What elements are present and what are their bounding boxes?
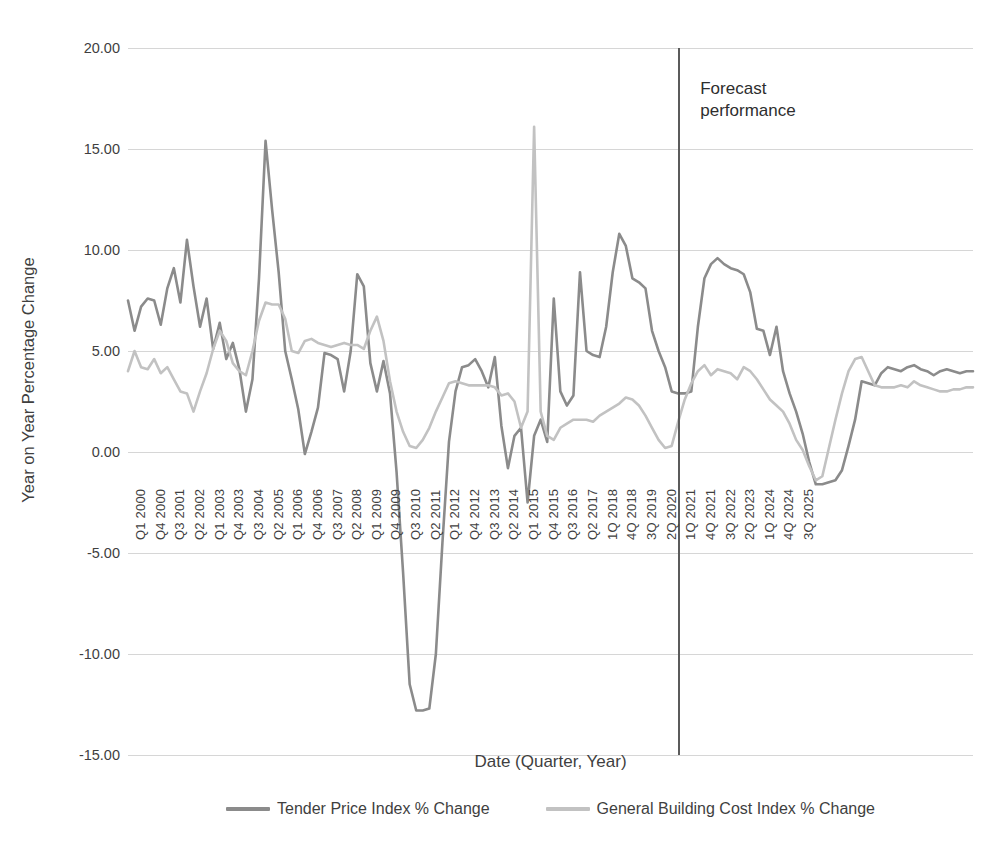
forecast-annotation: Forecast performance	[700, 78, 880, 122]
x-axis-tick-label: Q2 2008	[349, 489, 364, 540]
x-axis-ticks: Q1 2000Q4 2000Q3 2001Q2 2002Q1 2003Q4 20…	[128, 460, 973, 580]
x-axis-tick-label: 1Q 2024	[762, 489, 777, 540]
x-axis-tick-label: Q1 2015	[526, 489, 541, 540]
x-axis-tick-label: Q4 2006	[310, 489, 325, 540]
x-axis-tick-label: 1Q 2018	[605, 489, 620, 540]
y-axis-tick-label: 5.00	[48, 343, 120, 359]
legend-swatch	[546, 807, 590, 810]
x-axis-tick-label: Q4 2000	[153, 489, 168, 540]
x-axis-tick-label: Q4 2015	[546, 489, 561, 540]
x-axis-tick-label: Q2 2011	[428, 490, 443, 540]
x-axis-title: Date (Quarter, Year)	[128, 752, 973, 772]
x-axis-tick-label: 4Q 2024	[781, 489, 796, 540]
legend-label: Tender Price Index % Change	[277, 800, 490, 818]
y-axis-tick-label: 0.00	[48, 444, 120, 460]
x-axis-tick-label: 4Q 2018	[624, 489, 639, 540]
x-axis-tick-label: Q2 2014	[506, 489, 521, 540]
x-axis-tick-label: Q3 2007	[330, 489, 345, 540]
x-axis-tick-label: Q1 2009	[369, 489, 384, 540]
y-axis-ticks: 20.0015.0010.005.000.00-5.00-10.00-15.00	[46, 0, 120, 760]
x-axis-tick-label: Q3 2001	[172, 489, 187, 540]
x-axis-tick-label: Q2 2005	[271, 489, 286, 540]
series-line	[128, 127, 973, 481]
forecast-annotation-line1: Forecast	[700, 78, 880, 100]
x-axis-tick-label: 1Q 2021	[683, 489, 698, 540]
x-axis-tick-label: Q1 2006	[290, 489, 305, 540]
forecast-divider-line	[678, 48, 679, 755]
x-axis-tick-label: Q3 2016	[565, 489, 580, 540]
x-axis-tick-label: 4Q 2021	[703, 489, 718, 540]
x-axis-tick-label: 3Q 2019	[644, 489, 659, 540]
x-axis-tick-label: 2Q 2020	[664, 489, 679, 540]
y-axis-tick-label: 15.00	[48, 141, 120, 157]
y-axis-tick-label: 10.00	[48, 242, 120, 258]
y-axis-tick-label: -10.00	[48, 646, 120, 662]
y-axis-tick-label: -15.00	[48, 747, 120, 763]
chart-legend: Tender Price Index % ChangeGeneral Build…	[128, 800, 973, 818]
legend-swatch	[226, 807, 270, 810]
x-axis-tick-label: Q3 2010	[408, 489, 423, 540]
forecast-annotation-line2: performance	[700, 100, 880, 122]
x-axis-tick-label: 3Q 2022	[723, 489, 738, 540]
x-axis-tick-label: Q3 2013	[487, 489, 502, 540]
legend-item: General Building Cost Index % Change	[546, 800, 875, 818]
chart-root: Year on Year Percentage Change 20.0015.0…	[0, 0, 995, 859]
x-axis-tick-label: Q2 2017	[585, 489, 600, 540]
y-axis-tick-label: -5.00	[48, 545, 120, 561]
x-axis-tick-label: Q4 2012	[467, 489, 482, 540]
x-axis-tick-label: 3Q 2025	[801, 489, 816, 540]
x-axis-tick-label: 2Q 2023	[742, 489, 757, 540]
x-axis-tick-label: Q1 2000	[133, 489, 148, 540]
x-axis-tick-label: Q1 2003	[212, 489, 227, 540]
x-axis-tick-label: Q3 2004	[251, 489, 266, 540]
x-axis-tick-label: Q1 2012	[447, 489, 462, 540]
x-axis-tick-label: Q4 2009	[388, 489, 403, 540]
series-line	[128, 141, 973, 711]
y-axis-tick-label: 20.00	[48, 40, 120, 56]
legend-item: Tender Price Index % Change	[226, 800, 490, 818]
x-axis-tick-label: Q2 2002	[192, 489, 207, 540]
series-lines	[128, 48, 973, 755]
plot-area	[128, 48, 973, 755]
x-axis-tick-label: Q4 2003	[231, 489, 246, 540]
y-axis-title: Year on Year Percentage Change	[19, 257, 38, 502]
legend-label: General Building Cost Index % Change	[597, 800, 875, 818]
